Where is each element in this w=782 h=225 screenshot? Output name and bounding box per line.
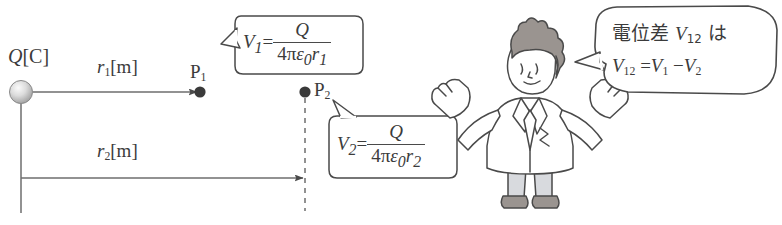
speech-line-1: 電位差 V12 は <box>612 18 772 46</box>
formula-v2: V2=Q4πε0r2 <box>337 122 425 169</box>
point-charge-sphere <box>10 81 33 104</box>
scientist-left-hand <box>432 80 470 119</box>
point-p1-label: P1 <box>190 62 206 84</box>
r1-label: r1[m] <box>97 57 138 79</box>
scientist-left-shoe <box>501 196 528 208</box>
speech-line-2: V12 =V1 −V2 <box>612 55 772 79</box>
point-p2-dot <box>299 86 310 97</box>
speech-balloon-text: 電位差 V12 は V12 =V1 −V2 <box>612 18 772 79</box>
physics-diagram: Q[C] r1[m] r2[m] P1 P2 V1=Q4πε0r1 V2=Q4π… <box>0 0 782 225</box>
formula-v1: V1=Q4πε0r1 <box>243 20 331 67</box>
point-p2-label: P2 <box>314 80 330 102</box>
charge-label: Q[C] <box>8 46 49 66</box>
scientist-right-shoe <box>532 196 559 208</box>
r2-label: r2[m] <box>97 141 138 163</box>
point-p1-dot <box>194 86 205 97</box>
